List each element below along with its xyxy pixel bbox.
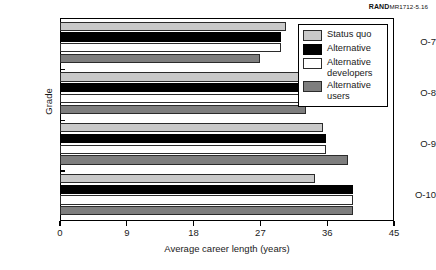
x-tick-mark	[126, 221, 127, 226]
y-tick-label-o-9: O-9	[380, 138, 436, 149]
legend-label-alternative: Alternative	[327, 43, 371, 54]
y-tick-label-o-8: O-8	[380, 87, 436, 98]
bar-o-8-status-quo	[60, 72, 306, 81]
x-tick-mark	[193, 221, 194, 226]
x-tick-label: 45	[379, 227, 409, 238]
x-tick-mark	[327, 221, 328, 226]
legend-item: Alternative developers	[303, 57, 383, 78]
y-axis-title: Grade	[43, 42, 54, 162]
bar-o-7-alternative-users	[60, 54, 260, 63]
bar-o-7-status-quo	[60, 22, 286, 31]
credit-brand: RAND	[369, 3, 390, 10]
chart-figure: RANDMR1712-5.16 Grade Average career len…	[0, 0, 436, 270]
bar-o-8-alternative-users	[60, 105, 306, 114]
x-tick-mark	[59, 221, 60, 226]
bar-o-10-alternative-developers	[60, 195, 353, 204]
legend-item: Alternative users	[303, 80, 383, 101]
x-tick-label: 27	[245, 227, 275, 238]
x-tick-label: 36	[312, 227, 342, 238]
y-tick-mark	[60, 170, 65, 171]
bar-o-10-alternative-users	[60, 206, 353, 215]
bar-o-8-alternative	[60, 83, 303, 92]
rand-credit-line: RANDMR1712-5.16	[369, 3, 428, 10]
bar-o-10-alternative	[60, 185, 353, 194]
legend-label-status-quo: Status quo	[327, 29, 371, 40]
legend-swatch-alternative-developers	[303, 58, 322, 69]
bar-o-9-status-quo	[60, 123, 323, 132]
legend-swatch-status-quo	[303, 30, 322, 41]
legend-label-alternative-developers: Alternative developers	[327, 57, 383, 78]
legend-item: Alternative	[303, 43, 383, 55]
bar-o-9-alternative-users	[60, 155, 348, 164]
x-tick-label: 18	[179, 227, 209, 238]
bar-o-9-alternative	[60, 134, 326, 143]
legend-swatch-alternative-users	[303, 81, 322, 92]
bar-o-10-status-quo	[60, 174, 315, 183]
y-tick-label-o-10: O-10	[380, 189, 436, 200]
y-tick-mark	[60, 69, 65, 70]
x-axis-title: Average career length (years)	[60, 243, 394, 254]
legend-swatch-alternative	[303, 44, 322, 55]
bar-o-7-alternative	[60, 32, 281, 41]
legend-label-alternative-users: Alternative users	[327, 80, 383, 101]
x-tick-mark	[393, 221, 394, 226]
x-tick-label: 0	[45, 227, 75, 238]
x-tick-mark	[260, 221, 261, 226]
bar-o-9-alternative-developers	[60, 145, 326, 154]
legend-item: Status quo	[303, 29, 383, 41]
y-tick-label-o-7: O-7	[380, 36, 436, 47]
bar-o-7-alternative-developers	[60, 43, 281, 52]
bar-o-8-alternative-developers	[60, 94, 303, 103]
chart-legend: Status quo Alternative Alternative devel…	[298, 24, 388, 107]
x-tick-label: 9	[112, 227, 142, 238]
y-tick-mark	[60, 120, 65, 121]
credit-doc-id: MR1712-5.16	[389, 3, 428, 10]
